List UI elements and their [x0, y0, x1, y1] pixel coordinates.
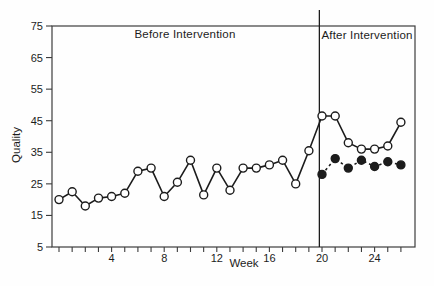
open-data-point — [397, 118, 405, 126]
open-data-point — [68, 188, 76, 196]
open-data-point — [292, 180, 300, 188]
open-data-point — [279, 156, 287, 164]
y-tick-label: 75 — [31, 20, 43, 32]
quality-vs-week-chart: 4812162024756555453525155 Quality Week B… — [0, 0, 434, 286]
open-data-point — [371, 145, 379, 153]
y-tick-label: 55 — [31, 83, 43, 95]
filled-data-point — [371, 163, 379, 171]
open-data-point — [108, 193, 116, 201]
open-data-point — [121, 189, 129, 197]
open-data-point — [226, 186, 234, 194]
filled-data-point — [384, 158, 392, 166]
intervention-time-series-figure: 4812162024756555453525155 Quality Week B… — [0, 0, 434, 286]
filled-data-point — [331, 155, 339, 163]
open-data-point — [239, 164, 247, 172]
plot-area: 4812162024756555453525155 — [31, 10, 415, 264]
open-data-point — [55, 196, 63, 204]
x-axis-title: Week — [229, 257, 258, 269]
open-data-point — [187, 156, 195, 164]
open-data-point — [357, 145, 365, 153]
open-data-point — [95, 194, 103, 202]
y-tick-label: 45 — [31, 115, 43, 127]
x-tick-label: 8 — [161, 252, 167, 264]
x-tick-label: 24 — [368, 252, 380, 264]
open-data-point — [173, 178, 181, 186]
filled-data-point — [344, 164, 352, 172]
open-data-point — [147, 164, 155, 172]
x-tick-label: 20 — [316, 252, 328, 264]
open-data-point — [384, 142, 392, 150]
open-data-point — [252, 164, 260, 172]
open-data-point — [318, 112, 326, 120]
y-tick-label: 65 — [31, 52, 43, 64]
y-axis-title: Quality — [10, 127, 22, 163]
series-open-circles — [55, 112, 405, 210]
open-data-point — [134, 167, 142, 175]
y-tick-label: 5 — [37, 241, 43, 253]
open-data-point — [344, 139, 352, 147]
open-data-point — [200, 191, 208, 199]
open-data-point — [305, 147, 313, 155]
y-tick-label: 15 — [31, 209, 43, 221]
plot-frame — [52, 26, 415, 247]
open-data-point — [265, 161, 273, 169]
open-data-point — [160, 193, 168, 201]
y-tick-label: 25 — [31, 178, 43, 190]
series-filled-circles — [318, 155, 405, 179]
open-data-point — [81, 202, 89, 210]
filled-data-point — [318, 170, 326, 178]
open-data-point — [331, 112, 339, 120]
x-tick-label: 12 — [211, 252, 223, 264]
x-tick-label: 16 — [263, 252, 275, 264]
open-data-point — [213, 164, 221, 172]
after-intervention-label: After Intervention — [321, 29, 412, 41]
y-tick-label: 35 — [31, 146, 43, 158]
before-intervention-label: Before Intervention — [135, 28, 236, 40]
filled-data-point — [397, 161, 405, 169]
x-tick-label: 4 — [109, 252, 115, 264]
filled-data-point — [357, 156, 365, 164]
